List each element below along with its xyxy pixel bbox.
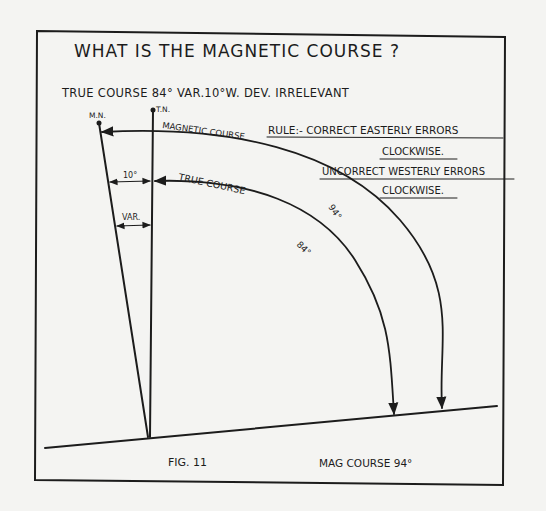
true-course-arc	[155, 181, 394, 414]
rule-line-1: RULE:- CORRECT EASTERLY ERRORS	[268, 124, 459, 136]
true-course-value: 84°	[295, 239, 313, 257]
baseline	[45, 406, 497, 448]
variation-dimension	[117, 225, 150, 226]
rule-line-2: CLOCKWISE.	[382, 146, 444, 157]
magnetic-north-label: M.N.	[89, 111, 106, 120]
figure-title: WHAT IS THE MAGNETIC COURSE ?	[74, 41, 400, 61]
ten-degree-label: 10°	[123, 171, 137, 180]
magnetic-north-dot	[97, 121, 102, 126]
true-north-line	[150, 110, 153, 437]
magnetic-course-value: 94°	[326, 202, 343, 221]
true-course-label: TRUE COURSE	[177, 171, 247, 196]
answer-label: MAG COURSE 94°	[319, 457, 412, 469]
magnetic-course-diagram: WHAT IS THE MAGNETIC COURSE ? TRUE COURS…	[0, 0, 546, 511]
rule-block: RULE:- CORRECT EASTERLY ERRORS CLOCKWISE…	[267, 124, 514, 198]
ten-degree-dimension	[110, 181, 150, 182]
figure-caption: FIG. 11	[168, 456, 207, 469]
variation-label: VAR.	[122, 213, 140, 222]
rule-line-3: UNCORRECT WESTERLY ERRORS	[322, 166, 485, 177]
true-north-dot	[151, 108, 156, 113]
rule-line-4: CLOCKWISE.	[382, 185, 444, 196]
magnetic-course-label: MAGNETIC COURSE	[162, 120, 246, 141]
true-north-label: T.N.	[155, 105, 170, 114]
given-data: TRUE COURSE 84° VAR.10°W. DEV. IRRELEVAN…	[61, 86, 350, 100]
